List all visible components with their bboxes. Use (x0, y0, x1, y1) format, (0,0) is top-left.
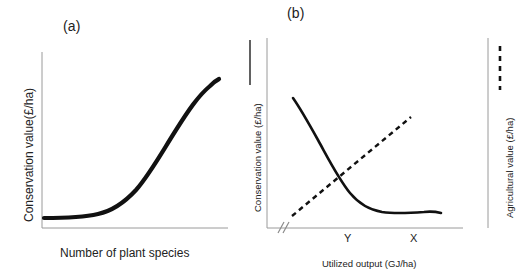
figure-svg (0, 0, 519, 275)
panel-b-agricultural-value-line (292, 117, 411, 216)
panel-a-conservation-value-curve (44, 79, 219, 218)
figure-container: (a) (b) Conservation value(£/ha) Number … (0, 0, 519, 275)
panel-b-plot (250, 38, 500, 233)
panel-a-plot (42, 52, 228, 228)
